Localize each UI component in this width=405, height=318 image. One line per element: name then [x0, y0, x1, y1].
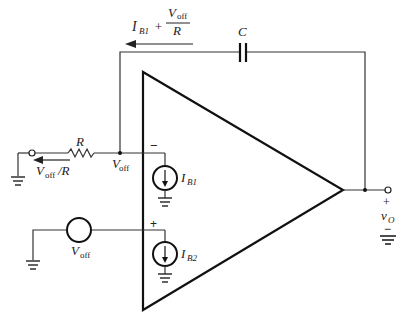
- ground-icon: [158, 198, 172, 206]
- ib1-source-symbol: I: [180, 170, 186, 185]
- capacitor-label: C: [238, 24, 247, 39]
- circuit-svg: C I B1 + V off R R V off /R V off: [0, 0, 405, 318]
- inverting-node-dot: [118, 151, 122, 155]
- plus-sign: +: [154, 19, 163, 34]
- input-current-tail: /R: [57, 163, 70, 178]
- capacitor-c: [240, 43, 246, 62]
- resistor-r: [68, 149, 94, 157]
- inverting-input-sign: −: [150, 138, 158, 153]
- input-terminal: [29, 150, 35, 156]
- ib1-symbol: I: [131, 19, 138, 34]
- ground-icon: [158, 274, 172, 282]
- ground-icon: [11, 177, 25, 185]
- ground-icon: [380, 236, 396, 244]
- voff-source-subscript: off: [80, 250, 90, 260]
- op-amp-triangle: [143, 72, 343, 310]
- feedback-current-label: I B1 + V off R: [131, 5, 190, 38]
- input-current-subscript: off: [45, 170, 55, 180]
- circuit-diagram: C I B1 + V off R R V off /R V off: [0, 0, 405, 318]
- noninverting-wire: [33, 230, 165, 260]
- ground-icon: [26, 261, 40, 269]
- r-denominator: R: [172, 23, 181, 38]
- noninverting-input-sign: +: [150, 217, 157, 231]
- output-voltage-symbol: v: [381, 208, 387, 223]
- output-node-dot: [363, 188, 367, 192]
- voltage-source-voff: [67, 218, 91, 242]
- ib1-source-subscript: B1: [187, 177, 197, 187]
- output-plus-sign: +: [383, 195, 390, 209]
- output-terminal: [385, 187, 391, 193]
- voff-num-subscript: off: [177, 11, 187, 21]
- ib1-subscript: B1: [139, 26, 149, 36]
- node-voltage-subscript: off: [119, 163, 129, 173]
- resistor-label: R: [75, 134, 84, 149]
- ib2-source-symbol: I: [180, 246, 186, 261]
- output-minus-sign: −: [384, 222, 391, 236]
- ib2-source-subscript: B2: [187, 253, 197, 263]
- current-source-ib2: [153, 242, 177, 274]
- current-source-ib1: [153, 166, 177, 198]
- feedback-current-arrow: [125, 40, 193, 48]
